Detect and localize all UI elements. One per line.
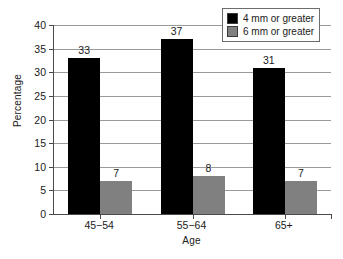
bar-group: 337 [68, 25, 132, 214]
legend-entry[interactable]: 6 mm or greater [227, 25, 314, 38]
y-tick-label: 25 [34, 90, 46, 102]
y-tick-mark [49, 25, 54, 26]
bar-group: 378 [161, 25, 225, 214]
bar[interactable]: 31 [253, 68, 285, 214]
bar[interactable]: 33 [68, 58, 100, 214]
y-tick-mark [49, 96, 54, 97]
y-tick-mark [49, 167, 54, 168]
legend-swatch-icon [227, 13, 238, 24]
bar[interactable]: 8 [193, 176, 225, 214]
y-tick-mark [49, 120, 54, 121]
bar-value-label: 7 [113, 167, 119, 179]
bar-value-label: 7 [298, 167, 304, 179]
bar[interactable]: 7 [100, 181, 132, 214]
x-tick-label: 55−64 [152, 219, 232, 231]
bar[interactable]: 7 [285, 181, 317, 214]
bar-value-label: 8 [206, 162, 212, 174]
legend-entry[interactable]: 4 mm or greater [227, 12, 314, 25]
y-tick-mark [49, 72, 54, 73]
bar-value-label: 33 [78, 44, 90, 56]
y-tick-label: 5 [40, 184, 46, 196]
y-tick-mark [49, 190, 54, 191]
y-tick-mark [49, 49, 54, 50]
bar-group: 317 [253, 25, 317, 214]
x-tick-label: 45−54 [59, 219, 139, 231]
bar-value-label: 31 [263, 54, 275, 66]
legend-label: 4 mm or greater [243, 13, 314, 24]
x-axis-title: Age [53, 235, 330, 246]
y-tick-mark [49, 143, 54, 144]
bar-chart: Percentage 0510152025303540337378317 Age… [0, 0, 343, 259]
y-tick-label: 0 [40, 208, 46, 220]
plot-area: 0510152025303540337378317 [53, 25, 331, 215]
y-tick-label: 20 [34, 114, 46, 126]
legend-label: 6 mm or greater [243, 26, 314, 37]
y-axis-title: Percentage [12, 51, 23, 151]
x-tick-label: 65+ [244, 219, 324, 231]
y-tick-label: 40 [34, 19, 46, 31]
y-tick-mark [49, 214, 54, 215]
y-tick-label: 10 [34, 161, 46, 173]
bar[interactable]: 37 [161, 39, 193, 214]
y-tick-label: 30 [34, 66, 46, 78]
x-tick-mark [331, 214, 332, 219]
y-tick-label: 35 [34, 43, 46, 55]
chart-legend: 4 mm or greater6 mm or greater [222, 8, 320, 42]
legend-swatch-icon [227, 26, 238, 37]
y-tick-label: 15 [34, 137, 46, 149]
bar-value-label: 37 [171, 25, 183, 37]
